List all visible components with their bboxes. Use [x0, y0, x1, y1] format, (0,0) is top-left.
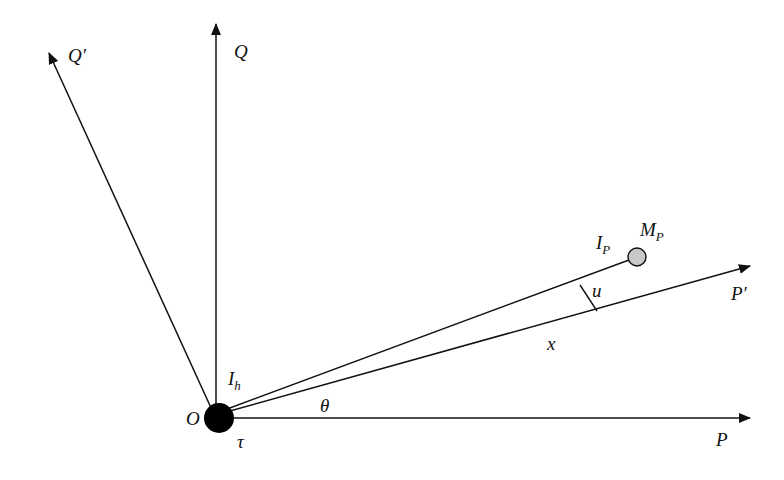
label-Q: Q — [234, 41, 248, 62]
label-P: P — [715, 429, 728, 450]
label-theta: θ — [320, 395, 329, 416]
label-I-h: Ih — [227, 368, 241, 393]
label-P-prime: P′ — [730, 283, 748, 304]
label-u: u — [592, 280, 602, 301]
label-x: x — [546, 333, 556, 354]
label-tau: τ — [237, 431, 245, 452]
line-to-mass — [219, 260, 629, 412]
label-M-P: MP — [639, 219, 664, 244]
label-Q-prime: Q′ — [68, 45, 87, 66]
mass-point — [628, 248, 646, 266]
rotating-frame-diagram: O P Q P′ Q′ Ih IP MP u x θ τ — [0, 0, 784, 480]
p-prime-axis — [219, 266, 750, 414]
q-prime-axis — [49, 53, 212, 410]
origin-point — [204, 403, 234, 433]
label-O: O — [186, 408, 200, 429]
label-I-P: IP — [595, 232, 610, 257]
